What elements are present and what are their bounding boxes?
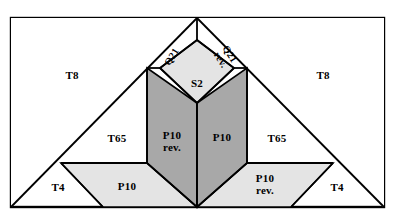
diagram-canvas: T8 T8 Q21 Q21 rev. S2 T65 T65 P10 rev. P… (0, 0, 395, 219)
tangram-dissection-svg (0, 0, 395, 219)
